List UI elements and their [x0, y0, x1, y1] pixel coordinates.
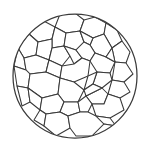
- figure-canvas: [0, 0, 150, 153]
- cell-pattern-figure: [0, 0, 150, 153]
